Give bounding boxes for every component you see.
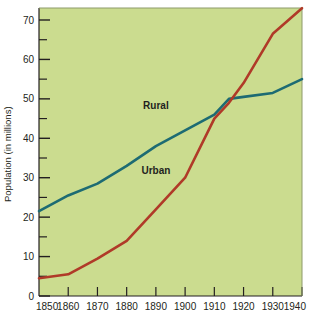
x-tick-label: 1870 bbox=[86, 301, 109, 312]
y-tick-label: 20 bbox=[23, 212, 35, 223]
x-tick-label: 1880 bbox=[116, 301, 139, 312]
y-axis-title: Population (in millions) bbox=[2, 106, 13, 202]
x-tick-label: 1850 bbox=[36, 301, 59, 312]
x-tick-label: 1930 bbox=[262, 301, 285, 312]
x-tick-label: 1890 bbox=[145, 301, 168, 312]
y-tick-label: 70 bbox=[23, 15, 35, 26]
chart-container: 010203040506070 185018601870188018901900… bbox=[0, 0, 313, 323]
y-tick-label: 60 bbox=[23, 54, 35, 65]
series-label-urban: Urban bbox=[141, 165, 170, 176]
x-tick-label: 1940 bbox=[284, 301, 307, 312]
x-tick-label: 1910 bbox=[203, 301, 226, 312]
x-tick-label: 1920 bbox=[232, 301, 255, 312]
series-label-rural: Rural bbox=[143, 100, 169, 111]
y-tick-label: 30 bbox=[23, 172, 35, 183]
y-tick-label: 40 bbox=[23, 133, 35, 144]
x-tick-label: 1860 bbox=[57, 301, 80, 312]
x-tick-label: 1900 bbox=[174, 301, 197, 312]
population-line-chart: 010203040506070 185018601870188018901900… bbox=[0, 0, 313, 323]
y-tick-label: 10 bbox=[23, 251, 35, 262]
y-tick-label: 0 bbox=[28, 291, 34, 302]
y-tick-label: 50 bbox=[23, 93, 35, 104]
